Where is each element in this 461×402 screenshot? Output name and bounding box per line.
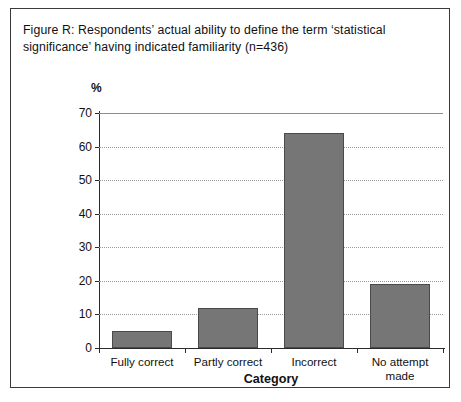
- y-tick-mark-50: [95, 180, 99, 181]
- gridline-40: [99, 214, 443, 215]
- chart-plot: % 010203040506070 Fully correctPartly co…: [11, 9, 449, 387]
- bar-fully-correct: [112, 331, 172, 348]
- gridline-60: [99, 147, 443, 148]
- y-tick-mark-20: [95, 281, 99, 282]
- x-tick-mark: [99, 348, 100, 353]
- x-tick-mark: [271, 348, 272, 353]
- gridline-50: [99, 180, 443, 181]
- y-tick-label: 10: [79, 307, 92, 321]
- y-tick-label: 40: [79, 207, 92, 221]
- plot-area: 010203040506070: [99, 113, 443, 348]
- bar-no-attempt-made: [370, 284, 430, 348]
- y-tick-label: 0: [85, 341, 92, 355]
- gridline-70: [99, 113, 443, 114]
- y-tick-mark-40: [95, 214, 99, 215]
- y-tick-mark-60: [95, 147, 99, 148]
- x-tick-mark: [443, 348, 444, 353]
- gridline-20: [99, 281, 443, 282]
- x-tick-label-incorrect: Incorrect: [271, 355, 357, 369]
- x-tick-mark: [185, 348, 186, 353]
- gridline-30: [99, 247, 443, 248]
- y-tick-label: 30: [79, 240, 92, 254]
- x-tick-mark: [357, 348, 358, 353]
- bar-incorrect: [284, 133, 344, 348]
- y-axis-unit-label: %: [91, 81, 102, 95]
- y-tick-label: 50: [79, 173, 92, 187]
- y-tick-label: 70: [79, 106, 92, 120]
- bar-partly-correct: [198, 308, 258, 348]
- y-tick-mark-70: [95, 113, 99, 114]
- x-tick-label-partly-correct: Partly correct: [185, 355, 271, 369]
- figure-frame: Figure R: Respondents’ actual ability to…: [10, 8, 450, 388]
- x-axis-title: Category: [99, 372, 443, 386]
- y-tick-label: 20: [79, 274, 92, 288]
- y-tick-mark-30: [95, 247, 99, 248]
- y-tick-mark-10: [95, 314, 99, 315]
- x-tick-label-fully-correct: Fully correct: [99, 355, 185, 369]
- y-tick-label: 60: [79, 140, 92, 154]
